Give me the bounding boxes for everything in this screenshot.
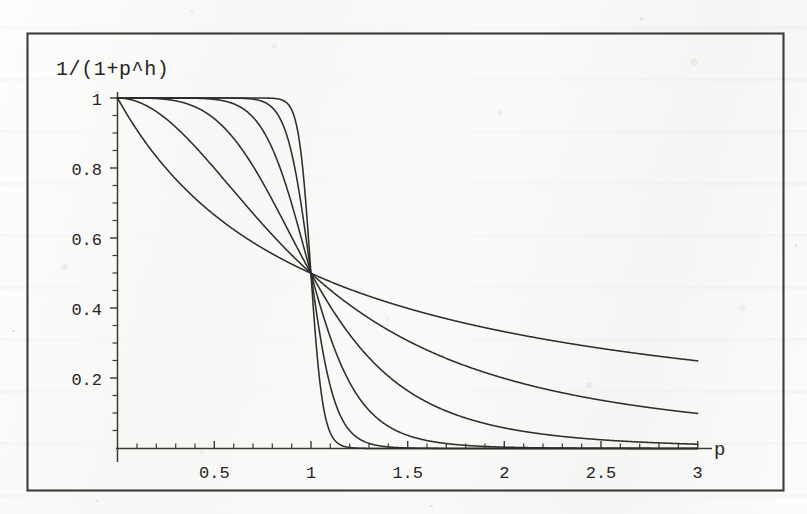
x-tick-label-3: 3 — [693, 464, 703, 483]
y-axis-ticks — [110, 98, 118, 431]
x-tick-label-2: 2 — [499, 464, 509, 483]
curve-h-1 — [118, 98, 698, 361]
data-curves — [118, 98, 698, 449]
y-tick-label-0-6: 0.6 — [71, 231, 102, 250]
x-tick-label-2-5: 2.5 — [586, 464, 617, 483]
figure-frame — [28, 34, 784, 491]
y-tick-label-0-8: 0.8 — [71, 161, 102, 180]
x-tick-label-1: 1 — [306, 464, 316, 483]
plot-svg: 1/(1+p^h) p 1 0.8 0.6 0.4 0.2 0.5 1 1.5 … — [0, 0, 807, 514]
x-axis-label: p — [714, 439, 725, 461]
curve-h-32 — [118, 98, 698, 449]
curve-h-8 — [118, 98, 698, 448]
curve-h-16 — [118, 98, 698, 449]
figure-plot-1-over-1-plus-p-to-h: 1/(1+p^h) p 1 0.8 0.6 0.4 0.2 0.5 1 1.5 … — [0, 0, 807, 514]
y-tick-label-0-2: 0.2 — [71, 371, 102, 390]
y-axis-label: 1/(1+p^h) — [56, 58, 169, 81]
x-tick-label-0-5: 0.5 — [199, 464, 230, 483]
plot-labels: 1/(1+p^h) p 1 0.8 0.6 0.4 0.2 0.5 1 1.5 … — [56, 58, 725, 483]
curve-h-2 — [118, 98, 698, 413]
plot-axes — [116, 92, 712, 462]
y-tick-label-0-4: 0.4 — [71, 301, 102, 320]
x-tick-label-1-5: 1.5 — [392, 464, 423, 483]
x-axis-ticks — [137, 441, 698, 449]
y-tick-label-1: 1 — [92, 91, 102, 110]
curve-h-4 — [118, 98, 698, 444]
